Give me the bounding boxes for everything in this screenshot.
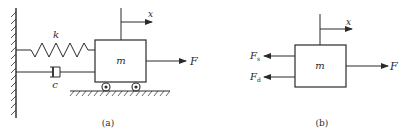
caption-a: (a) xyxy=(102,118,114,128)
applied-force-b: F xyxy=(346,60,398,73)
fixed-wall xyxy=(11,8,16,118)
displacement-label: x xyxy=(148,9,153,19)
displacement-indicator: x xyxy=(121,8,153,40)
mass-block: m xyxy=(95,40,146,82)
damper-force-label: Fd xyxy=(249,71,261,83)
damper-force: Fd xyxy=(249,71,295,83)
damping-coefficient-label: c xyxy=(52,79,58,90)
spring-force-label: Fs xyxy=(249,50,260,62)
figure-a: k c m x xyxy=(11,8,198,128)
spring-force: Fs xyxy=(249,50,295,62)
free-body-mass: m xyxy=(295,45,346,87)
damper: c xyxy=(16,67,95,90)
figure-b: x m Fs Fd F (b) xyxy=(249,14,398,128)
figure-canvas: k c m x xyxy=(0,0,402,133)
ground xyxy=(70,91,170,96)
force-label: F xyxy=(189,55,198,68)
spring-constant-label: k xyxy=(53,29,59,40)
force-label-b: F xyxy=(389,60,398,73)
mass-label-b: m xyxy=(315,60,324,71)
caption-b: (b) xyxy=(316,118,329,128)
displacement-label-b: x xyxy=(346,17,351,27)
spring: k xyxy=(16,29,95,57)
wheels xyxy=(102,83,140,91)
mass-label: m xyxy=(116,55,125,66)
applied-force: F xyxy=(146,55,198,68)
displacement-indicator-b: x xyxy=(320,14,352,45)
